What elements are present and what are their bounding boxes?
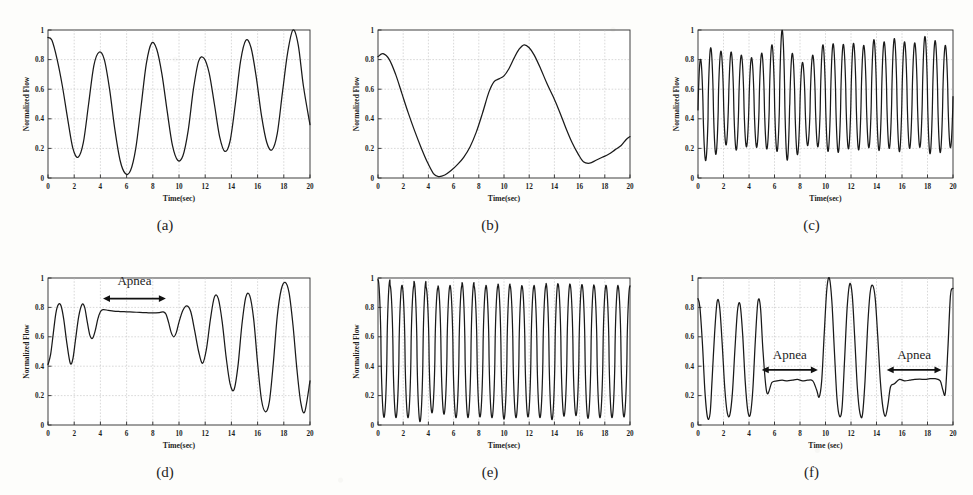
x-tick-label: 10 [500, 430, 508, 438]
panel-caption-d: (d) [156, 464, 174, 481]
x-tick-label: 6 [773, 430, 777, 438]
x-tick-label: 20 [949, 183, 957, 191]
y-axis-title: Normalized Flow [352, 324, 361, 379]
panel-f: 0246810121416182000.20.40.60.81Time (sec… [650, 248, 973, 495]
y-tick-label: 0 [690, 422, 694, 430]
x-tick-label: 0 [696, 430, 700, 438]
x-tick-label: 12 [847, 430, 855, 438]
x-tick-label: 10 [822, 430, 830, 438]
y-tick-label: 0.6 [685, 333, 694, 341]
x-axis-title: Time (sec) [808, 441, 843, 450]
x-tick-label: 8 [798, 430, 802, 438]
panel-caption-f: (f) [804, 464, 819, 481]
x-tick-label: 0 [376, 183, 380, 191]
x-tick-label: 2 [401, 183, 405, 191]
x-tick-label: 6 [125, 430, 129, 438]
y-tick-label: 1 [370, 275, 374, 283]
x-tick-label: 4 [427, 430, 431, 438]
x-tick-label: 2 [722, 183, 726, 191]
x-tick-label: 18 [280, 183, 288, 191]
x-tick-label: 4 [747, 430, 751, 438]
x-tick-label: 4 [99, 430, 103, 438]
y-tick-label: 1 [40, 27, 44, 35]
y-tick-label: 1 [40, 275, 44, 283]
y-tick-label: 1 [690, 27, 694, 35]
x-tick-label: 8 [151, 430, 155, 438]
x-tick-label: 12 [202, 430, 210, 438]
y-tick-label: 0.8 [35, 56, 44, 64]
y-axis-title: Normalized Flow [672, 76, 681, 131]
y-tick-label: 0.4 [685, 363, 694, 371]
y-tick-label: 0.8 [685, 56, 694, 64]
x-tick-label: 18 [924, 183, 932, 191]
x-tick-label: 20 [306, 183, 314, 191]
panel-b: 0246810121416182000.20.40.60.81Normalize… [330, 0, 650, 248]
apnea-label: Apnea [773, 347, 807, 362]
x-tick-label: 16 [898, 430, 906, 438]
x-tick-label: 14 [551, 430, 559, 438]
x-tick-label: 4 [427, 183, 431, 191]
figure-panel-grid: 0246810121416182000.20.40.60.81Normalize… [0, 0, 973, 495]
x-axis-title: Time(sec) [488, 194, 521, 203]
x-tick-label: 2 [72, 183, 76, 191]
x-tick-label: 14 [551, 183, 559, 191]
panel-d: 0246810121416182000.20.40.60.81Normalize… [0, 248, 330, 495]
x-tick-label: 10 [175, 430, 183, 438]
x-tick-label: 14 [873, 430, 881, 438]
y-tick-label: 0.4 [685, 115, 694, 123]
y-tick-label: 0.8 [365, 304, 374, 312]
x-tick-label: 20 [306, 430, 314, 438]
apnea-label: Apnea [117, 273, 151, 288]
y-tick-label: 1 [690, 275, 694, 283]
x-tick-label: 16 [576, 183, 584, 191]
x-tick-label: 20 [949, 430, 957, 438]
x-tick-label: 6 [773, 183, 777, 191]
y-tick-label: 0 [690, 175, 694, 183]
x-tick-label: 12 [847, 183, 855, 191]
y-tick-label: 0.6 [35, 333, 44, 341]
panel-c: 0246810121416182000.20.40.60.81Normalize… [650, 0, 973, 248]
x-tick-label: 6 [452, 430, 456, 438]
panel-caption-b: (b) [481, 217, 499, 234]
panel-caption-e: (e) [482, 464, 499, 481]
y-tick-label: 1 [370, 27, 374, 35]
x-tick-label: 8 [151, 183, 155, 191]
x-tick-label: 6 [452, 183, 456, 191]
x-tick-label: 0 [46, 430, 50, 438]
y-tick-label: 0.2 [365, 392, 374, 400]
panel-a: 0246810121416182000.20.40.60.81Normalize… [0, 0, 330, 248]
y-axis-title: Normalized Flow [22, 324, 31, 379]
y-axis-title: Normalized Flow [352, 76, 361, 131]
y-tick-label: 0.8 [365, 56, 374, 64]
x-tick-label: 18 [280, 430, 288, 438]
y-tick-label: 0 [370, 175, 374, 183]
x-tick-label: 8 [798, 183, 802, 191]
y-tick-label: 0 [40, 422, 44, 430]
x-axis-title: Time(sec) [488, 441, 521, 450]
y-tick-label: 0.2 [365, 145, 374, 153]
x-tick-label: 0 [46, 183, 50, 191]
y-tick-label: 0.2 [685, 392, 694, 400]
y-tick-label: 0.4 [35, 363, 44, 371]
x-tick-label: 4 [99, 183, 103, 191]
y-tick-label: 0.8 [35, 304, 44, 312]
x-axis-title: Time(sec) [163, 441, 196, 450]
x-axis-title: Time(sec) [163, 194, 196, 203]
x-tick-label: 8 [477, 183, 481, 191]
x-tick-label: 12 [526, 430, 534, 438]
y-axis-title: Normalized Flow [22, 76, 31, 131]
x-tick-label: 18 [601, 183, 609, 191]
x-tick-label: 0 [696, 183, 700, 191]
x-tick-label: 4 [747, 183, 751, 191]
x-tick-label: 20 [626, 430, 634, 438]
x-tick-label: 12 [526, 183, 534, 191]
panel-caption-a: (a) [157, 217, 174, 234]
y-tick-label: 0.6 [35, 86, 44, 94]
x-tick-label: 16 [898, 183, 906, 191]
y-tick-label: 0.2 [685, 145, 694, 153]
x-tick-label: 16 [576, 430, 584, 438]
x-tick-label: 16 [254, 183, 262, 191]
x-tick-label: 2 [401, 430, 405, 438]
x-tick-label: 18 [601, 430, 609, 438]
x-tick-label: 12 [202, 183, 210, 191]
